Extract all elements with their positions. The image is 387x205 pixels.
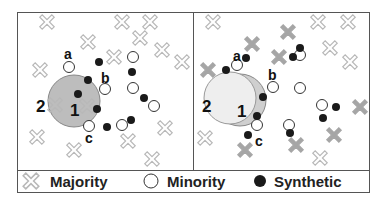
right-label-1: 1 — [237, 102, 246, 121]
majority-x-icon — [133, 31, 147, 45]
minority-circle-icon — [284, 120, 295, 131]
majority-x-icon — [107, 50, 121, 64]
synthetic-dot-icon — [140, 94, 148, 102]
synthetic-dot-icon — [332, 103, 340, 111]
majority-x-icon — [115, 15, 129, 29]
majority-x-icon — [67, 143, 81, 157]
majority-x-icon — [40, 15, 54, 29]
minority-circle-icon — [149, 101, 160, 112]
majority-x-filled-icon — [289, 138, 303, 152]
majority-x-icon — [30, 130, 44, 144]
minority-circle-icon — [295, 83, 306, 94]
minority-circle-icon — [64, 62, 75, 73]
minority-circle-icon — [317, 100, 328, 111]
majority-x-filled-icon — [201, 63, 215, 77]
right-label-b: b — [268, 67, 277, 83]
synthetic-dot-icon — [289, 53, 297, 61]
minority-circle-icon — [268, 82, 279, 93]
left-label-c: c — [85, 130, 93, 146]
majority-x-icon — [311, 15, 325, 29]
majority-x-icon — [323, 41, 337, 55]
smote-diagram: a b c 1 2 a b c 1 2 Majority Minority Sy… — [0, 0, 387, 205]
minority-circle-icon — [252, 120, 263, 131]
right-label-c: c — [255, 133, 263, 149]
left-label-1: 1 — [70, 101, 79, 120]
synthetic-dot-icon — [296, 44, 304, 52]
majority-x-filled-icon — [245, 37, 259, 51]
synthetic-dot-icon — [95, 58, 103, 66]
synthetic-dot-icon — [244, 131, 252, 139]
synthetic-dot-icon — [242, 54, 250, 62]
minority-circle-icon — [117, 120, 128, 131]
majority-x-icon — [145, 152, 159, 166]
synthetic-dot-icon — [127, 116, 135, 124]
legend-majority-label: Majority — [50, 173, 108, 190]
majority-x-icon — [206, 15, 220, 29]
left-label-a: a — [64, 46, 72, 62]
majority-x-filled-icon — [281, 25, 295, 39]
majority-x-filled-icon — [272, 50, 286, 64]
majority-x-icon — [121, 134, 135, 148]
synthetic-dot-icon — [84, 76, 92, 84]
legend-minority-icon — [144, 174, 158, 188]
synthetic-dot-icon — [93, 105, 101, 113]
synthetic-dot-icon — [128, 68, 136, 76]
synthetic-dot-icon — [253, 112, 261, 120]
left-label-2: 2 — [36, 97, 45, 116]
legend-minority-label: Minority — [167, 173, 226, 190]
synthetic-dot-icon — [74, 90, 82, 98]
majority-x-filled-icon — [238, 143, 252, 157]
majority-x-icon — [158, 121, 172, 135]
synthetic-dot-icon — [319, 114, 327, 122]
majority-x-icon — [343, 55, 357, 69]
majority-x-icon — [155, 43, 169, 57]
majority-x-filled-icon — [327, 128, 341, 142]
right-label-a: a — [233, 48, 241, 64]
majority-x-icon — [198, 131, 212, 145]
majority-x-filled-icon — [353, 100, 367, 114]
right-label-2: 2 — [202, 97, 211, 116]
minority-circle-icon — [128, 83, 139, 94]
legend-majority-icon — [23, 173, 39, 189]
synthetic-dot-icon — [222, 66, 230, 74]
legend-synthetic-icon — [254, 175, 266, 187]
legend-synthetic-label: Synthetic — [274, 173, 342, 190]
synthetic-dot-icon — [259, 93, 267, 101]
left-label-b: b — [101, 70, 110, 86]
right-circle-2 — [204, 72, 256, 124]
synthetic-dot-icon — [286, 129, 294, 137]
majority-x-icon — [81, 35, 95, 49]
majority-x-icon — [341, 15, 355, 29]
majority-x-icon — [175, 55, 189, 69]
synthetic-dot-icon — [103, 123, 111, 131]
minority-circle-icon — [128, 52, 139, 63]
majority-x-icon — [33, 63, 47, 77]
majority-x-icon — [313, 151, 327, 165]
majority-x-icon — [143, 15, 157, 29]
